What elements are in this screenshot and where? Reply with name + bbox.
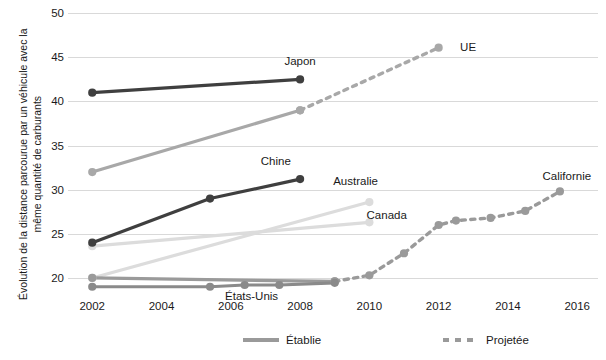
line-established-Australie: [92, 202, 369, 278]
data-point-Australie: [365, 198, 373, 206]
data-point-Californie: [452, 216, 460, 224]
y-axis-tick-label: 30: [38, 184, 64, 196]
line-established-Japon: [92, 79, 300, 92]
y-axis-tick-label: 20: [38, 272, 64, 284]
series-label-Californie: Californie: [543, 170, 592, 182]
series-label-Chine: Chine: [261, 155, 291, 167]
data-point-Japon: [88, 89, 96, 97]
series-label-UE: UE: [460, 41, 476, 53]
data-point-États-Unis: [331, 279, 339, 287]
legend-item-etablie: Établie: [243, 334, 321, 346]
y-axis-tick-labels: 20253035404550: [36, 0, 64, 300]
data-point-UE: [435, 44, 443, 52]
y-axis-title-container: Évolution de la distance parcourue par u…: [0, 0, 36, 300]
data-point-États-Unis: [275, 281, 283, 289]
fuel-efficiency-line-chart: Évolution de la distance parcourue par u…: [0, 0, 606, 360]
data-point-Chine: [206, 194, 214, 202]
series-lines: [68, 0, 598, 300]
line-projected-UE: [300, 48, 439, 111]
line-established-Chine: [92, 179, 300, 243]
x-axis-tick-label: 2002: [79, 300, 105, 312]
data-point-UE: [296, 106, 304, 114]
data-point-Californie: [487, 214, 495, 222]
dashed-line-swatch-icon: [443, 338, 479, 342]
x-axis-tick-label: 2004: [149, 300, 175, 312]
series-label-Canada: Canada: [367, 209, 407, 221]
y-axis-tick-label: 40: [38, 95, 64, 107]
data-point-États-Unis: [206, 283, 214, 291]
x-axis-tick-label: 2012: [426, 300, 452, 312]
plot-area: JaponUEChineAustralieCanadaCalifornieÉta…: [68, 0, 598, 300]
data-point-Californie: [435, 221, 443, 229]
x-axis-tick-label: 2006: [218, 300, 244, 312]
legend-item-projetee: Projetée: [443, 334, 529, 346]
legend-label-etablie: Établie: [286, 334, 321, 346]
series-label-Australie: Australie: [333, 175, 378, 187]
solid-line-swatch-icon: [243, 338, 279, 342]
data-point-Californie: [556, 187, 564, 195]
data-point-Chine: [88, 239, 96, 247]
data-point-Californie: [400, 249, 408, 257]
data-point-Japon: [296, 75, 304, 83]
line-established-Californie: [92, 278, 334, 282]
data-point-UE: [88, 168, 96, 176]
x-axis-tick-label: 2014: [495, 300, 521, 312]
data-point-Californie: [88, 274, 96, 282]
x-axis-tick-label: 2016: [564, 300, 590, 312]
legend-label-projetee: Projetée: [486, 334, 529, 346]
y-axis-tick-label: 45: [38, 51, 64, 63]
x-axis-tick-label: 2008: [287, 300, 313, 312]
chart-legend: Établie Projetée: [0, 330, 606, 358]
data-point-Californie: [521, 207, 529, 215]
x-axis-tick-label: 2010: [357, 300, 383, 312]
data-point-États-Unis: [241, 281, 249, 289]
y-axis-tick-label: 25: [38, 228, 64, 240]
y-axis-tick-label: 50: [38, 7, 64, 19]
data-point-Californie: [365, 271, 373, 279]
series-label-Japon: Japon: [284, 55, 315, 67]
y-axis-tick-label: 35: [38, 140, 64, 152]
data-point-Chine: [296, 175, 304, 183]
data-point-États-Unis: [88, 283, 96, 291]
